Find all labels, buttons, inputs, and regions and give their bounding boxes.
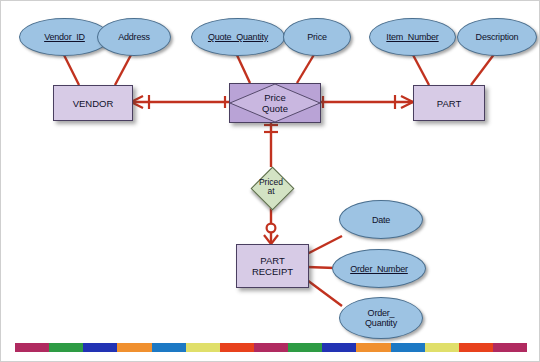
entity-label: PART [437,98,461,109]
attribute-label: Description [476,32,519,42]
attribute-label: Order_Number [350,264,408,274]
attribute-item-number[interactable]: Item_Number [369,18,456,56]
color-bar-segment-8 [288,343,322,352]
associative-entity-price-quote[interactable]: Price Quote [229,83,321,123]
color-bar-segment-10 [356,343,390,352]
line-part_receipt-order_quantity [307,280,342,306]
color-bar-segment-5 [186,343,220,352]
color-bar-segment-13 [459,343,493,352]
relationship-priced-at[interactable]: Priced at [243,167,299,207]
color-bar-segment-1 [49,343,83,352]
line-part-item_number [412,53,429,85]
color-bar-segment-3 [117,343,151,352]
decorative-color-bar [15,343,527,352]
color-bar-segment-12 [425,343,459,352]
connector-vendor-price-quote [131,95,229,109]
attribute-quote-quantity[interactable]: Quote_Quantity [191,18,285,56]
attribute-label: Price [307,32,327,42]
color-bar-segment-14 [493,343,527,352]
attribute-order-number[interactable]: Order_Number [332,249,426,288]
connector-price-quote-priced-at [264,121,278,167]
color-bar-segment-9 [322,343,356,352]
attribute-label: Date [372,215,390,225]
attribute-address[interactable]: Address [97,18,171,56]
entity-label: VENDOR [73,98,114,109]
attribute-label: Order_ Quantity [365,308,397,328]
color-bar-segment-2 [83,343,117,352]
attribute-description[interactable]: Description [457,18,537,56]
associative-entity-label: Price Quote [230,84,320,122]
attribute-date[interactable]: Date [339,200,423,239]
entity-part[interactable]: PART [413,85,485,121]
attribute-label: Item_Number [386,32,438,42]
color-bar-segment-4 [152,343,186,352]
connector-price-quote-part [319,95,413,109]
color-bar-segment-11 [391,343,425,352]
line-vendor-vendor_id [63,53,79,85]
line-vendor-address [115,53,132,85]
attribute-order-quantity[interactable]: Order_ Quantity [339,297,423,339]
entity-label: PART RECEIPT [252,255,293,277]
line-part_receipt-order_number [307,267,335,268]
relationship-label: Priced at [243,167,299,207]
attribute-price[interactable]: Price [283,18,351,56]
color-bar-segment-6 [220,343,254,352]
attribute-label: Quote_Quantity [208,32,268,42]
line-part-description [471,53,495,85]
line-part_receipt-date [307,236,342,254]
line-price_quote-quote_quantity [236,53,250,83]
optional-circle-part-receipt [267,224,276,233]
entity-part-receipt[interactable]: PART RECEIPT [236,244,309,288]
color-bar-segment-0 [15,343,49,352]
connector-priced-at-part-receipt [264,207,278,244]
line-price_quote-price [297,53,315,83]
er-diagram-canvas: Vendor_ID Address Quote_Quantity Price I… [0,0,540,362]
entity-vendor[interactable]: VENDOR [53,85,133,121]
color-bar-segment-7 [254,343,288,352]
attribute-label: Address [118,32,150,42]
attribute-label: Vendor_ID [44,32,85,42]
